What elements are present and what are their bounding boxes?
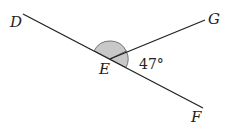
label-g: G [208,10,220,28]
label-d: D [9,13,22,31]
angle-diagram: D G E F 47° [0,0,228,125]
line-df [23,14,203,108]
label-e: E [98,60,110,78]
label-f: F [190,108,202,125]
angle-label-47: 47° [139,56,164,72]
ray-eg [110,20,205,59]
